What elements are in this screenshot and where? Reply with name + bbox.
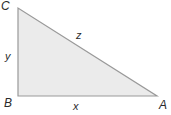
triangle-figure: C B A y x z	[0, 0, 171, 115]
side-label-y: y	[5, 51, 11, 62]
side-label-z: z	[76, 30, 82, 41]
triangle-polygon	[18, 8, 157, 96]
vertex-label-c: C	[1, 0, 10, 12]
side-label-x: x	[73, 101, 79, 112]
vertex-label-a: A	[159, 99, 167, 111]
triangle-shape	[0, 0, 171, 115]
vertex-label-b: B	[4, 97, 12, 109]
